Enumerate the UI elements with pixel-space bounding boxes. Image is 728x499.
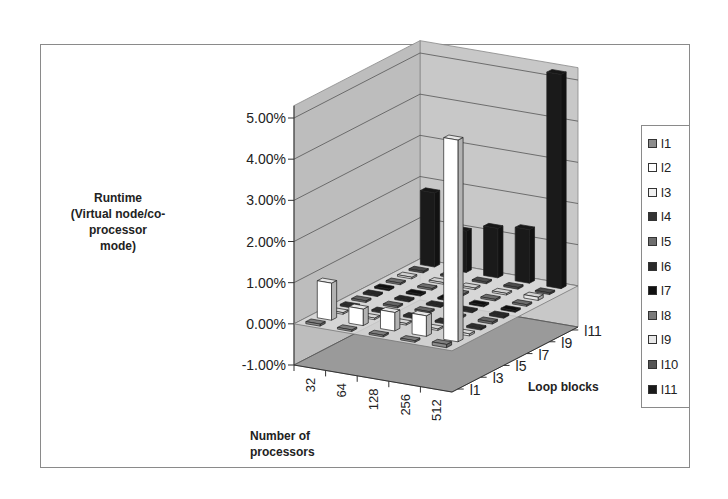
x-tick-label: 32 [303,378,318,392]
legend-item: l4 [648,210,671,224]
legend-label: l11 [661,382,677,397]
bar [547,69,566,288]
legend-swatch-icon [648,188,657,197]
legend-swatch-icon [648,286,657,295]
legend-swatch-icon [648,385,657,394]
bar [515,225,534,284]
legend-swatch-icon [648,311,657,320]
legend-item: l5 [648,234,671,248]
y-title-line: processor [62,222,174,238]
x-tick-label: 512 [429,399,444,421]
bar [444,135,463,342]
y-title-line: mode) [62,238,174,254]
depth-tick-label: l1 [470,382,481,398]
legend-item: l10 [648,357,678,371]
y-tick-label: 4.00% [246,151,286,167]
bar [484,223,503,277]
legend-label: l1 [661,136,671,151]
bar [317,278,336,320]
y-axis-title: Runtime (Virtual node/co- processor mode… [62,190,174,254]
legend-swatch-icon [648,335,657,344]
legend-swatch-icon [648,139,657,148]
legend-label: l8 [661,308,671,323]
legend-label: l6 [661,259,671,274]
x-title-line: Number of [250,428,360,444]
x-tick-label: 256 [398,394,413,416]
legend-label: l10 [661,357,678,372]
legend-label: l4 [661,209,671,224]
legend-item: l11 [648,382,677,396]
x-axis-title: Number of processors [250,428,360,460]
legend: l1l2l3l4l5l6l7l8l9l10l11 [641,125,690,408]
legend-swatch-icon [648,163,657,172]
bar [420,188,439,267]
legend-item: l3 [648,185,671,199]
x-title-line: processors [250,444,360,460]
depth-tick-label: l3 [493,370,504,386]
x-tick-label: 64 [334,383,349,397]
legend-label: l7 [661,283,671,298]
depth-tick-label: l7 [538,347,549,363]
y-tick-label: 2.00% [246,234,286,250]
legend-swatch-icon [648,237,657,246]
y-tick-label: 3.00% [246,192,286,208]
bar [412,311,431,337]
legend-swatch-icon [648,262,657,271]
legend-swatch-icon [648,212,657,221]
bar [349,304,368,326]
legend-item: l6 [648,259,671,273]
legend-swatch-icon [648,360,657,369]
legend-item: l8 [648,308,671,322]
x-tick-label: 128 [366,389,381,411]
legend-item: l7 [648,284,671,298]
depth-tick-label: l5 [516,358,527,374]
legend-label: l5 [661,234,671,249]
depth-tick-label: l9 [561,335,572,351]
legend-label: l9 [661,332,671,347]
y-title-line: (Virtual node/co- [62,206,174,222]
legend-item: l1 [648,136,671,150]
depth-tick-label: l11 [584,323,602,339]
y-tick-label: -1.00% [242,357,286,373]
y-tick-label: 0.00% [246,316,286,332]
y-tick-label: 5.00% [246,110,286,126]
legend-label: l2 [661,160,671,175]
depth-axis-title: Loop blocks [528,380,599,394]
y-title-line: Runtime [62,190,174,206]
y-tick-label: 1.00% [246,275,286,291]
legend-item: l9 [648,333,671,347]
bar [380,307,399,331]
legend-item: l2 [648,161,671,175]
legend-label: l3 [661,185,671,200]
